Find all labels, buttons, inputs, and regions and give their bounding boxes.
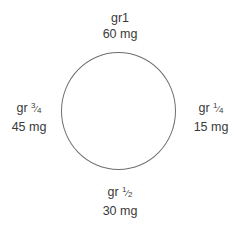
mg-bottom: 30 mg [95,203,145,219]
grain-right: gr 1⁄4 [188,98,234,119]
mg-top: 60 mg [95,26,145,42]
label-bottom: gr 1⁄2 30 mg [95,182,145,219]
grain-top: gr1 [95,10,145,26]
mg-left: 45 mg [6,119,52,135]
grain-bottom: gr 1⁄2 [95,182,145,203]
grain-left: gr 3⁄4 [6,98,52,119]
label-top: gr1 60 mg [95,10,145,42]
fraction-right: 1⁄4 [213,104,223,114]
label-right: gr 1⁄4 15 mg [188,98,234,135]
label-left: gr 3⁄4 45 mg [6,98,52,135]
fraction-bottom: 1⁄2 [122,188,132,198]
mg-right: 15 mg [188,119,234,135]
dose-circle [61,52,176,170]
fraction-left: 3⁄4 [31,104,41,114]
